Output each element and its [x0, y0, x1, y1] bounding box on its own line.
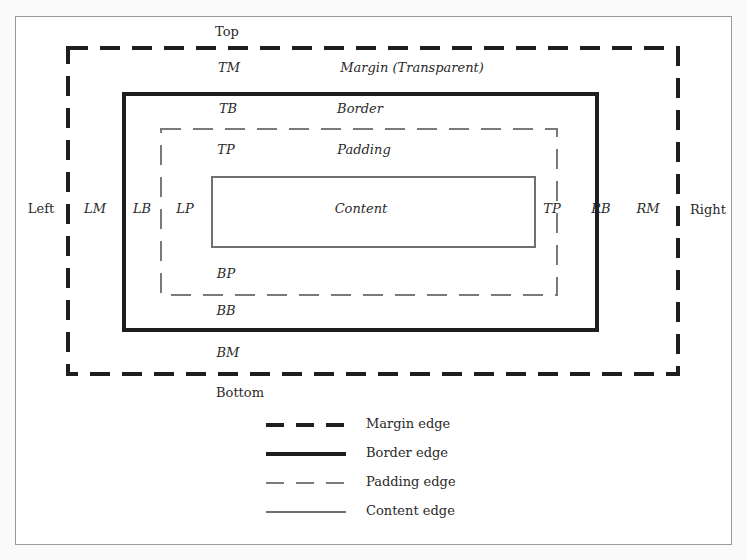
- padding-left-label: LP: [176, 201, 193, 216]
- content-label: Content: [335, 201, 388, 216]
- legend-item-padding-edge: Padding edge: [266, 472, 506, 492]
- thin-dashed-line-icon: [266, 472, 348, 492]
- legend-item-border-edge: Border edge: [266, 443, 506, 463]
- margin-title: Margin (Transparent): [340, 60, 484, 75]
- border-right-label: RB: [591, 201, 610, 216]
- thin-solid-line-icon: [266, 501, 348, 521]
- border-title: Border: [337, 101, 383, 116]
- border-top-label: TB: [219, 101, 237, 116]
- side-label-top: Top: [215, 24, 239, 39]
- margin-right-label: RM: [636, 201, 659, 216]
- legend-item-content-edge: Content edge: [266, 501, 506, 521]
- legend-label: Border edge: [366, 443, 448, 463]
- side-label-left: Left: [28, 201, 54, 216]
- thick-dashed-line-icon: [266, 414, 348, 434]
- padding-right-label: TP: [543, 201, 560, 216]
- margin-left-label: LM: [84, 201, 106, 216]
- border-bottom-label: BB: [216, 303, 235, 318]
- legend-label: Margin edge: [366, 414, 450, 434]
- legend-item-margin-edge: Margin edge: [266, 414, 506, 434]
- margin-bottom-label: BM: [217, 345, 240, 360]
- side-label-right: Right: [690, 202, 726, 217]
- side-label-bottom: Bottom: [216, 385, 264, 400]
- padding-title: Padding: [337, 142, 390, 157]
- padding-bottom-label: BP: [217, 266, 235, 281]
- border-left-label: LB: [133, 201, 151, 216]
- margin-top-label: TM: [218, 60, 240, 75]
- thick-solid-line-icon: [266, 443, 348, 463]
- legend-label: Padding edge: [366, 472, 456, 492]
- padding-top-label: TP: [217, 142, 234, 157]
- legend-label: Content edge: [366, 501, 455, 521]
